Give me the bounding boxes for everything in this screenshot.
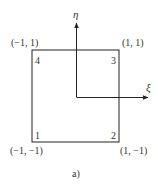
node-coords-3: (1, 1) — [122, 37, 144, 49]
node-number-2: 2 — [111, 130, 116, 141]
node-coords-1: (−1, −1) — [10, 145, 43, 157]
quadrilateral-element-diagram: η ξ 4 3 1 2 (−1, 1) (1, 1) (−1, −1) (1, … — [0, 0, 158, 188]
eta-label: η — [73, 8, 78, 20]
node-number-1: 1 — [35, 130, 40, 141]
figure-caption: a) — [72, 168, 80, 180]
node-number-4: 4 — [35, 55, 40, 66]
node-coords-4: (−1, 1) — [11, 37, 38, 49]
element-square — [32, 50, 119, 142]
node-coords-2: (1, −1) — [120, 145, 147, 157]
xi-label: ξ — [146, 81, 151, 94]
node-number-3: 3 — [111, 55, 116, 66]
